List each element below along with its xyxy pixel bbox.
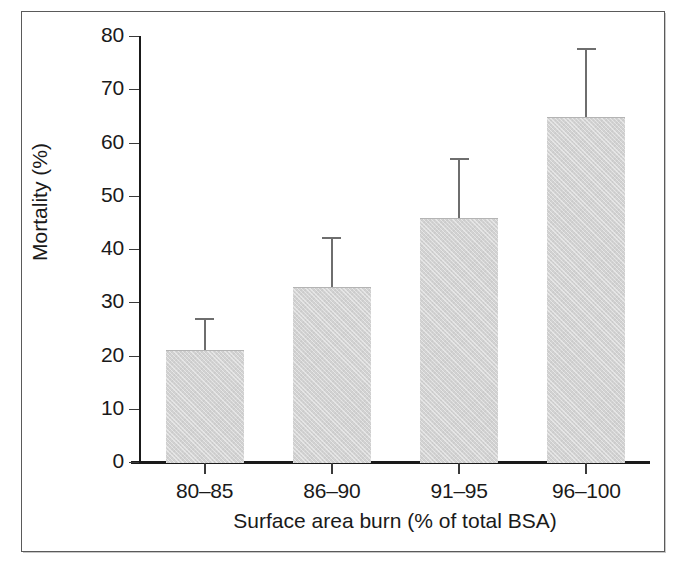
y-tick-label: 70 bbox=[80, 76, 124, 100]
y-tick-label: 30 bbox=[80, 289, 124, 313]
y-tick-mark bbox=[129, 462, 139, 463]
x-tick-label: 96–100 bbox=[516, 479, 656, 503]
x-tick-mark bbox=[585, 463, 587, 474]
y-tick-mark bbox=[129, 409, 139, 410]
y-tick-mark bbox=[129, 196, 139, 197]
y-axis-title: Mortality (%) bbox=[28, 102, 52, 302]
error-bar-cap bbox=[577, 48, 596, 50]
x-tick-label: 80–85 bbox=[135, 479, 275, 503]
x-tick-mark bbox=[331, 463, 333, 474]
y-tick-mark bbox=[129, 36, 139, 37]
y-tick-label-wrap: 60 bbox=[74, 130, 124, 154]
y-tick-label: 80 bbox=[80, 23, 124, 47]
bar bbox=[420, 218, 498, 463]
y-tick-label: 60 bbox=[80, 130, 124, 154]
x-tick-label: 86–90 bbox=[262, 479, 402, 503]
y-tick-label: 0 bbox=[80, 449, 124, 473]
y-tick-label-wrap: 0 bbox=[74, 449, 124, 473]
bar bbox=[547, 117, 625, 463]
error-bar-stem bbox=[331, 237, 333, 288]
y-tick-label: 40 bbox=[80, 236, 124, 260]
error-bar-cap bbox=[195, 318, 214, 320]
x-axis-title: Surface area burn (% of total BSA) bbox=[140, 509, 650, 533]
error-bar-stem bbox=[204, 318, 206, 350]
y-tick-label-wrap: 30 bbox=[74, 289, 124, 313]
bar bbox=[166, 350, 244, 463]
y-tick-label-wrap: 70 bbox=[74, 76, 124, 100]
x-tick-label: 91–95 bbox=[389, 479, 529, 503]
error-bar-stem bbox=[585, 48, 587, 117]
y-tick-label-wrap: 20 bbox=[74, 343, 124, 367]
error-bar-cap bbox=[322, 237, 341, 239]
y-tick-label: 50 bbox=[80, 183, 124, 207]
y-tick-label-wrap: 80 bbox=[74, 23, 124, 47]
x-tick-mark bbox=[458, 463, 460, 474]
y-tick-label-wrap: 10 bbox=[74, 396, 124, 420]
y-tick-label: 10 bbox=[80, 396, 124, 420]
y-tick-label: 20 bbox=[80, 343, 124, 367]
y-tick-mark bbox=[129, 89, 139, 90]
y-tick-mark bbox=[129, 143, 139, 144]
y-tick-mark bbox=[129, 249, 139, 250]
bar-chart: 01020304050607080 80–8586–9091–9596–100 … bbox=[0, 0, 679, 572]
error-bar-stem bbox=[458, 158, 460, 218]
y-axis-line bbox=[139, 36, 141, 463]
y-tick-mark bbox=[129, 302, 139, 303]
y-tick-label-wrap: 50 bbox=[74, 183, 124, 207]
error-bar-cap bbox=[450, 158, 469, 160]
y-tick-label-wrap: 40 bbox=[74, 236, 124, 260]
y-tick-mark bbox=[129, 356, 139, 357]
bar bbox=[293, 287, 371, 463]
x-tick-mark bbox=[204, 463, 206, 474]
